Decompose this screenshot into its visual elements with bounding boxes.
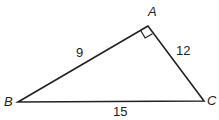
vertex-label-c: C	[207, 93, 217, 108]
vertex-label-a: A	[147, 4, 157, 19]
triangle-diagram: A B C 9 12 15	[0, 0, 219, 120]
side-label-ac: 12	[176, 43, 190, 58]
triangle-abc	[18, 26, 204, 102]
right-angle-marker	[141, 30, 153, 38]
vertex-label-b: B	[4, 94, 13, 109]
side-label-bc: 15	[113, 104, 127, 119]
side-label-ab: 9	[76, 45, 83, 60]
